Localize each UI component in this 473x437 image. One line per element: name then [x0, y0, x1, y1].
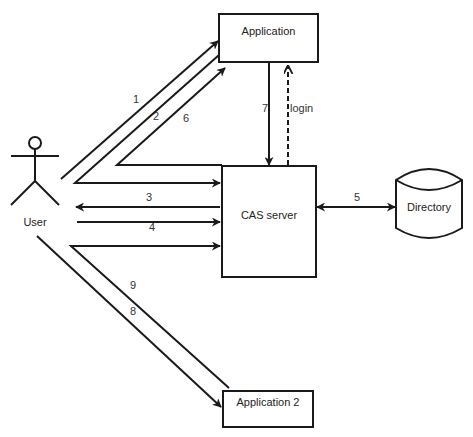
edge-1	[61, 41, 218, 179]
application2-label: Application 2	[223, 397, 313, 408]
edge-8	[37, 236, 221, 407]
edge-2	[75, 55, 220, 183]
edge-label-6: 6	[183, 113, 189, 124]
edge-label-2: 2	[153, 111, 159, 122]
edge-label-9: 9	[130, 280, 136, 291]
edge-label-5: 5	[354, 192, 360, 203]
edge-9	[71, 246, 229, 388]
edge-label-login: login	[290, 103, 313, 114]
cas-server-label: CAS server	[222, 210, 316, 221]
edge-label-8: 8	[130, 306, 136, 317]
user-stick-figure	[11, 137, 59, 205]
application-box	[219, 14, 318, 62]
directory-label: Directory	[396, 202, 462, 213]
cas-server-box	[222, 166, 316, 277]
edge-label-1: 1	[133, 94, 139, 105]
user-label: User	[15, 217, 55, 228]
application-label: Application	[219, 26, 318, 37]
edge-label-4: 4	[149, 222, 155, 233]
edge-label-7: 7	[262, 103, 268, 114]
edge-label-3: 3	[146, 192, 152, 203]
